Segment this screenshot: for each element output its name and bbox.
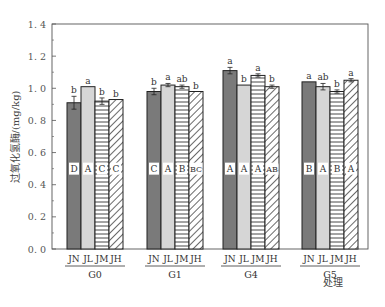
significance-lowercase: b xyxy=(334,79,340,89)
significance-lowercase: a xyxy=(306,71,312,81)
y-axis-label: 过氧化氢酶/(mg/kg) xyxy=(9,90,21,183)
significance-lowercase: a xyxy=(227,56,233,66)
category-label: JN xyxy=(223,254,236,264)
y-tick-label: 1. 4 xyxy=(28,19,46,30)
significance-uppercase: A xyxy=(319,164,327,174)
significance-uppercase: C xyxy=(113,164,120,174)
significance-uppercase: A xyxy=(164,164,172,174)
y-tick-label: 0. 8 xyxy=(28,115,46,126)
category-label: JH xyxy=(344,254,357,264)
group-label: G0 xyxy=(88,269,102,280)
category-label: JL xyxy=(162,254,173,264)
category-label: JN xyxy=(302,254,315,264)
significance-uppercase: C xyxy=(99,164,106,174)
category-label: JL xyxy=(317,254,328,264)
bar-chart: 0. 00. 20. 40. 60. 81. 01. 21. 4 bDJNaAJ… xyxy=(0,0,385,307)
bar-group-g1: bCJNaAJLabBJMbBCJHG1 xyxy=(145,72,205,280)
bar-groups: bDJNaAJLbCJMbCJHG0bCJNaAJLabBJMbBCJHG1aA… xyxy=(65,56,360,280)
significance-uppercase: AB xyxy=(265,165,278,174)
bar-g0-jn xyxy=(67,103,81,249)
significance-uppercase: BC xyxy=(190,165,202,174)
bar-group-g5: aBJNabAJLbBJMaAJHG5 xyxy=(300,68,360,280)
significance-lowercase: ab xyxy=(317,72,328,82)
significance-lowercase: a xyxy=(348,68,354,78)
significance-lowercase: b xyxy=(241,74,247,84)
significance-lowercase: a xyxy=(165,72,171,82)
significance-lowercase: a xyxy=(85,76,91,86)
significance-uppercase: B xyxy=(334,164,341,174)
bar-group-g4: aAJNbAJLaAJMbABJHG4 xyxy=(221,56,281,280)
significance-uppercase: C xyxy=(151,164,158,174)
bar-g4-jn xyxy=(223,71,237,249)
group-label: G4 xyxy=(244,269,258,280)
bar-g0-jm xyxy=(95,101,109,249)
significance-lowercase: b xyxy=(71,85,77,95)
significance-lowercase: b xyxy=(113,89,119,99)
category-label: JM xyxy=(175,254,189,264)
significance-uppercase: A xyxy=(226,164,234,174)
y-tick-label: 1. 0 xyxy=(28,83,46,94)
category-label: JM xyxy=(330,254,344,264)
significance-uppercase: A xyxy=(84,164,92,174)
category-label: JN xyxy=(67,254,80,264)
significance-uppercase: D xyxy=(70,164,77,174)
bar-group-g0: bDJNaAJLbCJMbCJHG0 xyxy=(65,76,125,280)
y-tick-label: 0. 2 xyxy=(28,211,46,222)
significance-uppercase: B xyxy=(179,164,186,174)
y-tick-label: 0. 0 xyxy=(28,244,46,255)
category-label: JH xyxy=(109,254,122,264)
x-axis-label: 处理 xyxy=(323,277,343,288)
y-tick-label: 1. 2 xyxy=(28,51,46,62)
significance-lowercase: b xyxy=(151,77,157,87)
significance-lowercase: a xyxy=(255,63,261,73)
y-tick-label: 0. 4 xyxy=(28,179,46,190)
category-label: JH xyxy=(189,254,202,264)
significance-uppercase: B xyxy=(306,164,313,174)
bar-g4-jm xyxy=(251,75,265,249)
significance-lowercase: b xyxy=(99,87,105,97)
category-label: JL xyxy=(238,254,249,264)
significance-lowercase: b xyxy=(193,81,199,91)
category-label: JM xyxy=(95,254,109,264)
group-label: G1 xyxy=(168,269,182,280)
significance-uppercase: A xyxy=(347,164,355,174)
y-tick-label: 0. 6 xyxy=(28,147,46,158)
significance-lowercase: ab xyxy=(176,74,187,84)
category-label: JM xyxy=(251,254,265,264)
significance-lowercase: b xyxy=(269,74,275,84)
category-label: JH xyxy=(265,254,278,264)
category-label: JN xyxy=(147,254,160,264)
significance-uppercase: A xyxy=(254,164,262,174)
significance-uppercase: A xyxy=(240,164,248,174)
category-label: JL xyxy=(82,254,93,264)
